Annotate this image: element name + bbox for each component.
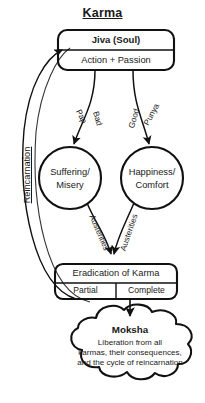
eradication-cell-complete: Complete [116, 286, 177, 296]
eradication-node-title: Eradication of Karma [55, 268, 177, 278]
page-title: Karma [0, 6, 205, 20]
moksha-node-line2: karmas, their consequences, [66, 348, 194, 358]
edge-jiva-to-happiness [133, 70, 149, 144]
suffering-node-shape [39, 147, 101, 209]
happiness-node-shape [121, 147, 183, 209]
moksha-node-line1: Liberation from all [72, 338, 188, 348]
moksha-node-title: Moksha [75, 325, 185, 336]
eradication-cell-partial: Partial [55, 286, 116, 296]
happiness-node-label-line1: Happiness/ [122, 167, 182, 178]
edge-label-reincarnation: Reincarnation [22, 135, 32, 215]
karma-cycle-diagram: Karma Jiva (Soul) Action + Passion Suffe… [0, 0, 205, 403]
jiva-node-subtitle: Action + Passion [58, 55, 174, 65]
suffering-node-label-line1: Suffering/ [42, 167, 98, 178]
edge-jiva-to-suffering [74, 70, 95, 144]
suffering-node-label-line2: Misery [42, 180, 98, 191]
moksha-node-line3: and the cycle of reincarnation [64, 358, 196, 368]
jiva-node-title: Jiva (Soul) [58, 35, 174, 46]
happiness-node-label-line2: Comfort [122, 180, 182, 191]
